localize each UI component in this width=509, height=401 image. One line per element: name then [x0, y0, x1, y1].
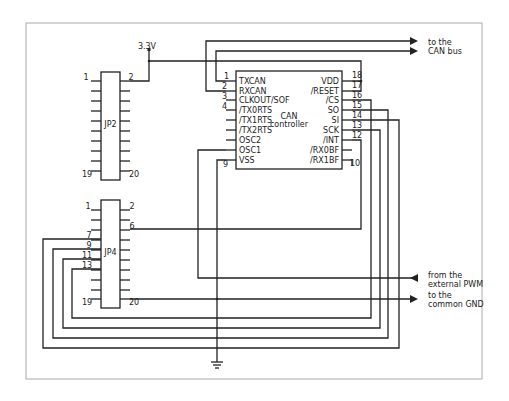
- jp2-name: JP2: [103, 120, 116, 129]
- pin-num-1: 1: [224, 72, 229, 81]
- arrow-right-icon: [410, 37, 418, 45]
- chip-name-line2: controller: [270, 120, 309, 129]
- jp4-pin-19: 19: [82, 298, 92, 307]
- pin-vss: VSS: [239, 156, 255, 165]
- can-bus-label-1: to the: [428, 38, 452, 47]
- pin-cs: /CS: [326, 96, 339, 105]
- spi-wires: [43, 100, 399, 348]
- pin-num-16: 16: [352, 91, 362, 100]
- pin-txcan: TXCAN: [238, 77, 266, 86]
- circuit-schematic: JP2 1 2 19 20 3.3V CAN controller: [0, 0, 509, 401]
- arrow-left-icon: [410, 274, 418, 282]
- pin-tx0rts: /TX0RTS: [239, 106, 272, 115]
- pin-osc1: OSC1: [239, 146, 261, 155]
- jp2-pin-20: 20: [129, 170, 139, 179]
- supply-label: 3.3V: [138, 42, 157, 51]
- pin-num-4: 4: [222, 102, 227, 111]
- pin-reset: /RESET: [311, 87, 339, 96]
- pin-int: /INT: [323, 136, 339, 145]
- vss-wire: [217, 160, 226, 362]
- jp2-pin-19: 19: [82, 170, 92, 179]
- pin-clkout: CLKOUT/SOF: [239, 96, 290, 105]
- pin-num-18: 18: [352, 71, 362, 80]
- pin-tx1rts: /TX1RTS: [239, 116, 272, 125]
- arrow-right-icon: [410, 47, 418, 55]
- pwm-label-2: external PWM: [428, 280, 483, 289]
- pin-rx1bf: /RX1BF: [310, 156, 339, 165]
- jp4-name: JP4: [103, 248, 116, 257]
- pin-num-12: 12: [352, 131, 362, 140]
- pin-si: SI: [332, 116, 339, 125]
- pin-so: SO: [328, 106, 339, 115]
- pin-num-9: 9: [223, 160, 228, 169]
- pin-vdd: VDD: [321, 77, 339, 86]
- pin-num-13: 13: [352, 121, 362, 130]
- jp2-pin-1: 1: [83, 73, 88, 82]
- pin-sck: SCK: [323, 126, 340, 135]
- pin-osc2: OSC2: [239, 136, 261, 145]
- pin-num-2: 2: [222, 82, 227, 91]
- jp4-pin-1: 1: [85, 202, 90, 211]
- jp4-pin-2: 2: [129, 202, 134, 211]
- can-controller-chip: CAN controller TXCAN RXCA: [222, 71, 362, 169]
- pin-num-3: 3: [222, 92, 227, 101]
- pwm-label-1: from the: [428, 271, 462, 280]
- pin-rxcan: RXCAN: [239, 87, 267, 96]
- pin-num-14: 14: [352, 111, 362, 120]
- pin-tx2rts: /TX2RTS: [239, 126, 272, 135]
- ground-icon: [211, 362, 223, 368]
- pin-num-15: 15: [352, 101, 362, 110]
- arrow-right-icon: [410, 295, 418, 303]
- gnd-label-1: to the: [428, 291, 452, 300]
- gnd-label-2: common GND: [428, 300, 484, 309]
- can-bus-label-2: CAN bus: [428, 47, 462, 56]
- jp2-header: JP2 1 2 19 20: [82, 72, 139, 180]
- jp4-header: JP4 1 2 6 7 9 11 13 19 20: [82, 200, 139, 308]
- pin-rx0bf: /RX0BF: [310, 146, 339, 155]
